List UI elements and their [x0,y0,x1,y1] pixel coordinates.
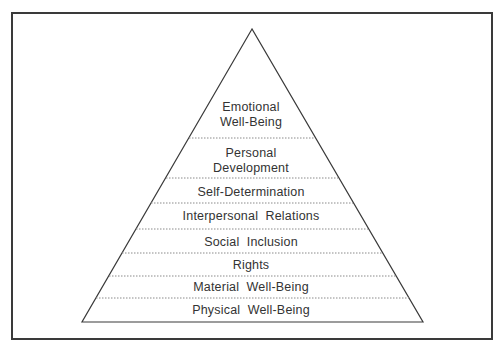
level-physical-wellbeing: Physical Well-Being [0,303,502,318]
level-personal-development-line1: Personal [0,146,502,161]
level-interpersonal-relations: Interpersonal Relations [0,209,502,224]
level-rights: Rights [0,258,502,273]
level-emotional-wellbeing-line2: Well-Being [0,115,502,130]
level-self-determination: Self-Determination [0,185,502,200]
level-material-wellbeing: Material Well-Being [0,280,502,295]
level-emotional-wellbeing-line1: Emotional [0,100,502,115]
level-social-inclusion: Social Inclusion [0,235,502,250]
level-personal-development-line2: Development [0,161,502,176]
